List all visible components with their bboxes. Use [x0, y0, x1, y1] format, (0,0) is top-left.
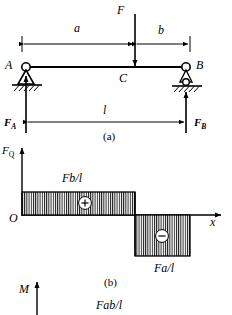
- reaction-left-subscript: A: [11, 122, 16, 131]
- node-label-c: C: [119, 72, 127, 84]
- shear-negative-block: [135, 215, 190, 256]
- shear-negative-value-label: Fa/l: [154, 262, 174, 274]
- moment-peak-value-label: Fab/l: [96, 299, 122, 311]
- reaction-right-subscript: B: [201, 122, 206, 131]
- panel-a-caption: (a): [103, 131, 115, 142]
- panel-b-caption: (b): [104, 277, 117, 288]
- reaction-force-right-label: FB: [194, 117, 206, 131]
- load-label-F: F: [117, 4, 124, 16]
- shear-axis-subscript: Q: [9, 150, 15, 159]
- shear-positive-value-label: Fb/l: [62, 172, 82, 184]
- dimension-a-label: a: [74, 22, 80, 34]
- shear-axis-horizontal-label: x: [210, 216, 215, 228]
- node-label-b: B: [196, 59, 203, 71]
- shear-positive-block: [22, 192, 135, 215]
- shear-axis-symbol: F: [2, 144, 9, 156]
- reaction-force-left-label: FA: [4, 117, 16, 131]
- figure-drawing: [0, 0, 232, 315]
- beam-shear-figure: F F a b A B C FA FB l (a) FQ O x Fb/l Fa…: [0, 0, 232, 315]
- dimension-b-label: b: [158, 24, 164, 36]
- origin-label: O: [9, 212, 18, 224]
- span-label: l: [103, 104, 106, 116]
- shear-axis-vertical-label: FQ: [2, 145, 14, 159]
- node-label-a: A: [5, 59, 12, 71]
- ground-hatch-right: [174, 87, 199, 93]
- moment-axis-label: M: [19, 283, 29, 295]
